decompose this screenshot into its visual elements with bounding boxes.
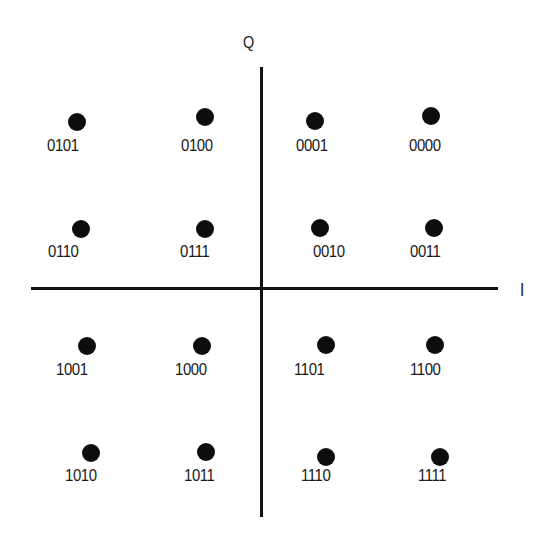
constellation-point-dot xyxy=(196,220,214,238)
constellation-point-dot xyxy=(426,336,444,354)
constellation-point-dot xyxy=(196,108,214,126)
constellation-point-dot xyxy=(72,220,90,238)
constellation-point-label: 0001 xyxy=(296,137,328,154)
q-axis-label: Q xyxy=(243,34,254,51)
constellation-point-dot xyxy=(317,336,335,354)
constellation-point-label: 1100 xyxy=(410,361,440,378)
constellation-point-label: 0101 xyxy=(47,137,79,154)
constellation-point-dot xyxy=(197,443,215,461)
constellation-point-dot xyxy=(431,448,449,466)
constellation-point-dot xyxy=(425,219,443,237)
constellation-point-label: 1111 xyxy=(418,467,446,484)
constellation-point-label: 0100 xyxy=(181,137,213,154)
constellation-point-dot xyxy=(311,219,329,237)
constellation-point-dot xyxy=(422,107,440,125)
constellation-point-label: 0000 xyxy=(409,137,441,154)
constellation-point-dot xyxy=(68,113,86,131)
constellation-point-label: 0111 xyxy=(180,243,209,260)
constellation-point-label: 1010 xyxy=(65,467,97,484)
constellation-point-label: 1011 xyxy=(184,467,214,484)
constellation-point-dot xyxy=(317,448,335,466)
constellation-point-label: 0010 xyxy=(313,243,345,260)
q-axis xyxy=(260,67,263,517)
constellation-point-label: 1101 xyxy=(294,361,324,378)
constellation-point-label: 1001 xyxy=(56,361,88,378)
i-axis-label: I xyxy=(520,282,524,299)
constellation-point-dot xyxy=(306,112,324,130)
constellation-point-dot xyxy=(78,337,96,355)
constellation-diagram: Q I 010101000001000001100111001000111001… xyxy=(0,0,547,538)
constellation-point-dot xyxy=(82,444,100,462)
constellation-point-label: 0110 xyxy=(48,243,78,260)
constellation-point-dot xyxy=(193,337,211,355)
i-axis xyxy=(31,287,498,290)
constellation-point-label: 1000 xyxy=(175,361,207,378)
constellation-point-label: 1110 xyxy=(301,467,330,484)
constellation-point-label: 0011 xyxy=(410,243,440,260)
